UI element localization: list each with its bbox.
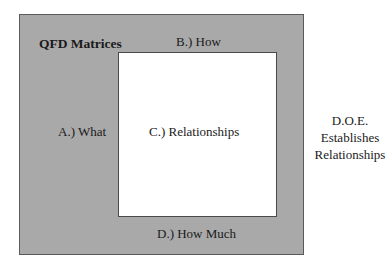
diagram-title: QFD Matrices	[39, 37, 122, 51]
section-what-label: A.) What	[58, 125, 106, 138]
section-how-much-label: D.) How Much	[157, 227, 236, 240]
section-relationships-label: C.) Relationships	[149, 125, 239, 138]
doe-note-line1: D.O.E.	[312, 112, 388, 129]
doe-note-line2: Establishes	[312, 129, 388, 146]
doe-note-line3: Relationships	[312, 146, 388, 163]
section-how-label: B.) How	[176, 35, 221, 48]
doe-note: D.O.E. Establishes Relationships	[312, 112, 388, 163]
